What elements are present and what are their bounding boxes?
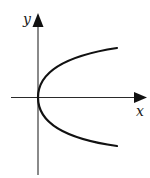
parabola-diagram: y x [0, 0, 150, 178]
y-axis-arrowhead-icon [33, 13, 44, 27]
y-axis-label: y [22, 11, 32, 27]
x-axis-arrowhead-icon [134, 92, 147, 103]
x-axis-label: x [136, 103, 144, 119]
